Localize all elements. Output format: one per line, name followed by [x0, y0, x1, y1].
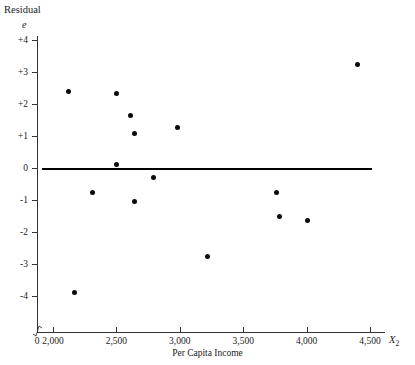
y-tick-label: -3 — [4, 259, 28, 269]
y-tick-mark — [32, 264, 38, 265]
y-tick-label: +3 — [4, 67, 28, 77]
y-tick-label: -1 — [4, 195, 28, 205]
y-tick-mark — [32, 72, 38, 73]
y-tick-mark — [32, 232, 38, 233]
y-tick-mark — [32, 200, 38, 201]
x-tick-mark — [307, 327, 308, 332]
data-point — [151, 175, 156, 180]
origin-label: 0 — [14, 336, 60, 347]
y-axis-line — [37, 36, 38, 333]
x-axis-title: Per Capita Income — [0, 348, 415, 358]
x-tick-mark — [243, 327, 244, 332]
x-tick-mark — [180, 327, 181, 332]
x-tick-label: 4,000 — [284, 336, 330, 347]
y-tick-mark — [32, 40, 38, 41]
x-tick-label: 3,000 — [157, 336, 203, 347]
x-axis-symbol: X2 — [389, 334, 399, 348]
data-point — [128, 113, 133, 118]
y-tick-label: +2 — [4, 99, 28, 109]
y-tick-label: +1 — [4, 131, 28, 141]
y-tick-label: 0 — [4, 163, 28, 173]
data-point — [175, 125, 180, 130]
y-tick-label: -4 — [4, 291, 28, 301]
data-point — [355, 62, 360, 67]
data-point — [277, 214, 282, 219]
data-point — [114, 91, 119, 96]
data-point — [205, 254, 210, 259]
x-tick-mark — [370, 327, 371, 332]
x-tick-mark — [53, 327, 54, 332]
data-point — [66, 89, 71, 94]
data-point — [90, 190, 95, 195]
y-tick-mark — [32, 296, 38, 297]
y-tick-mark — [32, 136, 38, 137]
y-tick-mark — [32, 168, 38, 169]
x-tick-mark — [116, 327, 117, 332]
data-point — [114, 162, 119, 167]
data-point — [274, 190, 279, 195]
y-tick-label: +4 — [4, 35, 28, 45]
data-point — [132, 199, 137, 204]
residual-scatter-chart: Residual e +4+3+2+10-1-2-3-4 2,0002,5003… — [0, 0, 415, 365]
zero-reference-line — [42, 168, 372, 170]
x-tick-label: 2,500 — [93, 336, 139, 347]
y-tick-label: -2 — [4, 227, 28, 237]
x-tick-label: 3,500 — [220, 336, 266, 347]
x-tick-label: 4,500 — [347, 336, 393, 347]
data-point — [132, 131, 137, 136]
y-tick-mark — [32, 104, 38, 105]
x-axis-line — [37, 332, 385, 333]
x-axis-symbol-subscript: 2 — [395, 339, 399, 348]
data-point — [305, 218, 310, 223]
y-axis-symbol: e — [22, 19, 26, 30]
y-axis-title: Residual — [4, 4, 41, 15]
data-point — [72, 290, 77, 295]
